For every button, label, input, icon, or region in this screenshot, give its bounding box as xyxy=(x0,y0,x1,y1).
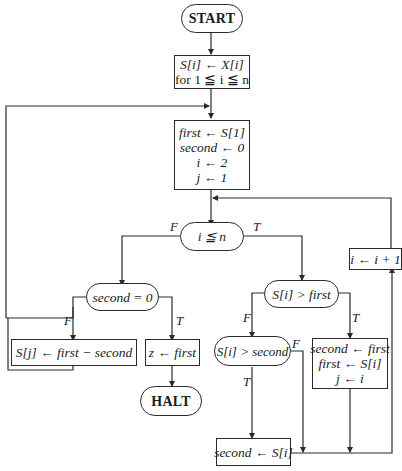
start-label: START xyxy=(189,11,236,26)
increment-i-label: i ← i + 1 xyxy=(350,252,400,267)
second-si-label: second ← S[i] xyxy=(214,445,293,460)
init-vars-line-2: second ← 0 xyxy=(180,140,245,155)
loop-condition-label: i ≦ n xyxy=(198,229,226,244)
second-zero-label: second = 0 xyxy=(92,290,152,305)
gt-first-label: S[i] > first xyxy=(272,287,331,302)
swap-line-3: j ← i xyxy=(336,371,364,386)
z-first-label: z ← first xyxy=(149,345,196,360)
halt-label: HALT xyxy=(151,394,191,409)
init-vars-line-3: i ← 2 xyxy=(197,155,228,170)
second-zero-decision: second = 0 xyxy=(86,283,159,311)
gt-second-true-label: T xyxy=(243,374,250,390)
gt-first-decision: S[i] > first xyxy=(264,280,339,308)
z-first-box: z ← first xyxy=(145,339,200,366)
init-s-line-1: S[i] ← X[i] xyxy=(180,57,244,72)
init-vars-line-1: first ← S[1] xyxy=(179,125,245,140)
second-zero-true-label: T xyxy=(176,313,183,329)
second-si-box: second ← S[i] xyxy=(216,438,291,466)
start-terminal: START xyxy=(181,4,243,33)
init-vars-box: first ← S[1] second ← 0 i ← 2 j ← 1 xyxy=(174,120,250,190)
swap-line-2: first ← S[i] xyxy=(318,356,381,371)
loop-condition-decision: i ≦ n xyxy=(180,222,244,251)
second-zero-false-label: F xyxy=(64,313,72,329)
swap-box: second ← first first ← S[i] j ← i xyxy=(312,338,388,389)
loop-false-label: F xyxy=(170,219,178,235)
loop-true-label: T xyxy=(253,219,260,235)
gt-first-false-label: F xyxy=(243,310,251,326)
init-vars-line-4: j ← 1 xyxy=(197,170,228,185)
gt-second-false-label: F xyxy=(292,336,300,352)
init-s-box: S[i] ← X[i] for 1 ≦ i ≦ n xyxy=(174,55,250,89)
assign-sj-box: S[j] ← first − second xyxy=(11,339,137,366)
assign-sj-label: S[j] ← first − second xyxy=(16,345,132,360)
gt-first-true-label: T xyxy=(352,310,359,326)
increment-i-box: i ← i + 1 xyxy=(349,248,402,270)
swap-line-1: second ← first xyxy=(310,341,390,356)
gt-second-decision: S[i] > second xyxy=(214,336,291,366)
init-s-line-2: for 1 ≦ i ≦ n xyxy=(175,72,249,87)
gt-second-label: S[i] > second xyxy=(217,344,289,359)
halt-terminal: HALT xyxy=(140,386,202,416)
